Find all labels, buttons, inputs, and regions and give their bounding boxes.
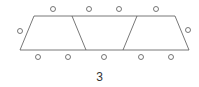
outline-shape [20,16,189,50]
circle-marker [18,29,23,34]
divider-line [123,16,137,50]
circle-marker [186,28,191,33]
circle-marker [87,7,92,12]
circle-marker [169,55,174,60]
circle-marker [102,55,107,60]
figure-label: 3 [0,70,199,84]
circle-marker [36,55,41,60]
divider-line [72,16,86,50]
circle-marker [154,7,159,12]
circle-marker [139,55,144,60]
circle-marker [66,55,71,60]
circle-marker [51,7,56,12]
circle-marker [117,7,122,12]
